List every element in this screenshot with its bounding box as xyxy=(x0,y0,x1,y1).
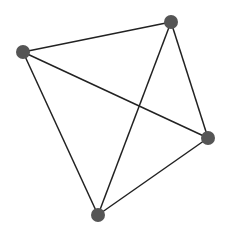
edges-layer xyxy=(23,22,208,215)
edge-A-B xyxy=(23,22,171,52)
edge-C-D xyxy=(98,138,208,215)
node-A xyxy=(16,45,30,59)
nodes-layer xyxy=(16,15,215,222)
edge-A-C xyxy=(23,52,208,138)
node-C xyxy=(201,131,215,145)
node-B xyxy=(164,15,178,29)
graph-diagram xyxy=(0,0,228,231)
edge-B-D xyxy=(98,22,171,215)
node-D xyxy=(91,208,105,222)
edge-B-C xyxy=(171,22,208,138)
edge-A-D xyxy=(23,52,98,215)
